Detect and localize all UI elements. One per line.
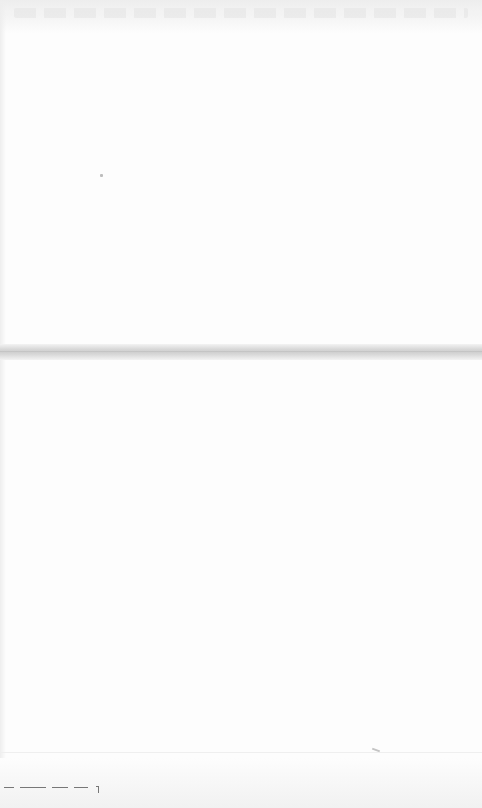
horizontal-divider[interactable] bbox=[0, 344, 482, 360]
divider-line bbox=[0, 351, 482, 352]
header-ghost-text bbox=[14, 8, 468, 18]
footer-separator bbox=[0, 752, 482, 753]
blank-page bbox=[0, 0, 482, 808]
footer-underline bbox=[4, 787, 88, 789]
header-band bbox=[0, 0, 482, 34]
left-edge-shadow bbox=[0, 0, 6, 808]
footer-hook-mark bbox=[96, 786, 99, 793]
footer-band bbox=[0, 758, 482, 808]
cursor-mark bbox=[100, 174, 103, 177]
